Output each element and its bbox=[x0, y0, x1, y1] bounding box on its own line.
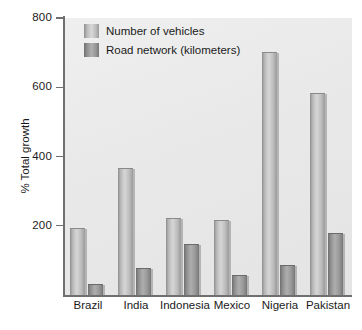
x-axis-label: Pakistan bbox=[304, 299, 352, 311]
x-axis-label: Indonesia bbox=[160, 299, 208, 311]
bar-road-network bbox=[136, 268, 151, 295]
bar-vehicles bbox=[310, 93, 325, 295]
x-axis-label: Nigeria bbox=[256, 299, 304, 311]
legend-item: Road network (kilometers) bbox=[84, 43, 240, 57]
bar-group bbox=[310, 0, 343, 295]
legend-item: Number of vehicles bbox=[84, 24, 240, 38]
y-tick-mark bbox=[56, 156, 63, 157]
bar-road-network bbox=[88, 284, 103, 295]
y-tick-mark bbox=[56, 225, 63, 226]
x-axis-label: Mexico bbox=[208, 299, 256, 311]
bar-vehicles bbox=[70, 228, 85, 295]
legend-label: Number of vehicles bbox=[106, 25, 204, 37]
y-tick-label: 800 bbox=[0, 11, 52, 23]
bar-road-network bbox=[232, 275, 247, 295]
bar-vehicles bbox=[166, 218, 181, 295]
bar-group bbox=[262, 0, 295, 295]
chart-legend: Number of vehiclesRoad network (kilomete… bbox=[84, 24, 240, 62]
bar-vehicles bbox=[214, 220, 229, 295]
y-tick-label: 200 bbox=[0, 219, 52, 231]
x-axis-label: Brazil bbox=[64, 299, 112, 311]
y-tick-label: 600 bbox=[0, 80, 52, 92]
bar-vehicles bbox=[262, 52, 277, 295]
bar-road-network bbox=[184, 244, 199, 295]
x-axis-label: India bbox=[112, 299, 160, 311]
y-axis-line bbox=[63, 16, 65, 297]
x-axis-line bbox=[63, 295, 352, 297]
legend-label: Road network (kilometers) bbox=[106, 44, 240, 56]
bar-road-network bbox=[280, 265, 295, 295]
y-tick-mark bbox=[56, 17, 63, 18]
dark-gray-bar-swatch bbox=[84, 43, 99, 57]
y-axis-title: % Total growth bbox=[19, 101, 31, 211]
bar-vehicles bbox=[118, 168, 133, 295]
light-gray-bar-swatch bbox=[84, 24, 99, 38]
bar-chart: 800600400200 % Total growth BrazilIndiaI… bbox=[0, 0, 362, 330]
y-tick-mark bbox=[56, 87, 63, 88]
bar-road-network bbox=[328, 233, 343, 295]
